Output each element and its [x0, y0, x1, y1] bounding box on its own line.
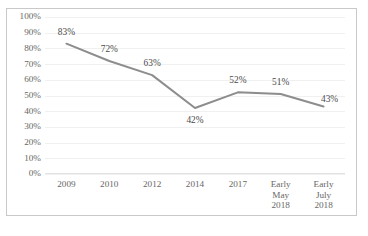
data-point-label: 52% [229, 76, 246, 85]
y-tick-label: 60% [24, 75, 41, 84]
data-point-label: 63% [144, 59, 161, 68]
gridline [45, 174, 345, 175]
y-tick-label: 30% [24, 122, 41, 131]
plot-area: 83%72%63%42%52%51%43% [45, 17, 345, 174]
data-point-label: 43% [321, 95, 338, 104]
y-tick-label: 20% [24, 138, 41, 147]
y-tick-label: 100% [20, 12, 41, 21]
data-point-label: 72% [101, 45, 118, 54]
y-axis: 100%90%80%70%60%50%40%30%20%10%0% [7, 9, 43, 182]
x-axis: 20092010201220142017Early May 2018Early … [45, 179, 345, 217]
y-tick-label: 90% [24, 28, 41, 37]
y-tick-label: 80% [24, 44, 41, 53]
x-tick-label: 2010 [88, 179, 131, 190]
data-point-label: 42% [186, 116, 203, 125]
x-tick-label: Early July 2018 [302, 179, 345, 211]
data-point-label: 83% [58, 28, 75, 37]
y-tick-label: 50% [24, 91, 41, 100]
chart-container: 100%90%80%70%60%50%40%30%20%10%0% 83%72%… [6, 8, 357, 216]
x-tick-label: 2009 [45, 179, 88, 190]
y-tick-label: 0% [29, 169, 41, 178]
y-tick-label: 40% [24, 107, 41, 116]
series-line-chart [45, 17, 345, 174]
x-tick-label: 2017 [216, 179, 259, 190]
y-tick-label: 10% [24, 154, 41, 163]
x-tick-label: Early May 2018 [259, 179, 302, 211]
y-tick-label: 70% [24, 60, 41, 69]
x-tick-label: 2014 [174, 179, 217, 190]
x-tick-label: 2012 [131, 179, 174, 190]
data-point-label: 51% [272, 78, 289, 87]
